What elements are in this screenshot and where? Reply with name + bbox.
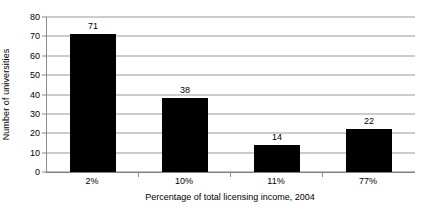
y-tick-label: 80	[30, 13, 40, 22]
bar-value-label: 71	[88, 22, 98, 31]
y-tick-label: 0	[35, 168, 40, 177]
bars-layer: 71381422	[47, 17, 415, 172]
bar	[70, 34, 116, 172]
y-tick-label: 40	[30, 90, 40, 99]
y-tick-label: 70	[30, 32, 40, 41]
y-axis-tick-labels: 80706050403020100	[14, 17, 42, 172]
x-axis-title: Percentage of total licensing income, 20…	[46, 193, 414, 202]
bar	[254, 145, 300, 172]
bar-group: 38	[139, 17, 231, 172]
bar-group: 71	[47, 17, 139, 172]
bar-value-label: 38	[180, 86, 190, 95]
y-tick-label: 30	[30, 109, 40, 118]
x-tick-label: 2%	[85, 177, 98, 186]
bar-group: 14	[231, 17, 323, 172]
y-tick-label: 60	[30, 51, 40, 60]
y-axis-title-text: Number of universities	[3, 49, 12, 141]
x-tick-label: 10%	[175, 177, 193, 186]
bar-group: 22	[323, 17, 415, 172]
y-tick-label: 20	[30, 129, 40, 138]
x-axis-tick-labels: 2%10%11%77%	[46, 177, 414, 191]
y-tick-label: 10	[30, 148, 40, 157]
x-tick-label: 11%	[267, 177, 284, 186]
x-tick-label: 77%	[359, 177, 377, 186]
bar	[162, 98, 208, 172]
bar-chart-figure: Number of universities 80706050403020100…	[0, 0, 427, 212]
bar-value-label: 22	[364, 117, 374, 126]
y-tick-label: 50	[30, 71, 40, 80]
bar	[346, 129, 392, 172]
plot-area: 71381422	[46, 17, 415, 173]
bar-value-label: 14	[272, 133, 282, 142]
y-axis-title: Number of universities	[0, 17, 14, 172]
